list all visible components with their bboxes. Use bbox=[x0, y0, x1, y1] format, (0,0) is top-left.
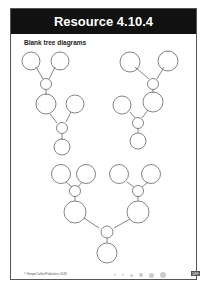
tree-diagram-3 bbox=[52, 165, 161, 264]
tree-diagram-1 bbox=[22, 52, 84, 155]
tree-diagrams bbox=[0, 0, 208, 286]
tree-diagram-2 bbox=[113, 51, 178, 149]
